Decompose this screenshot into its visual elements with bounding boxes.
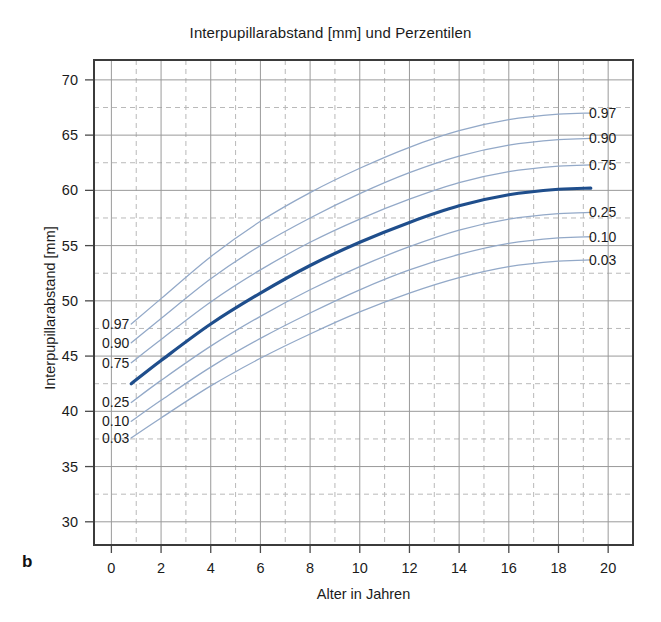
grid-minor-lines — [94, 60, 633, 545]
x-tick-label: 14 — [451, 560, 467, 576]
percentile-label-right-0_03: 0.03 — [589, 252, 616, 268]
x-tick-label: 16 — [501, 560, 517, 576]
y-tick-label: 70 — [62, 72, 78, 88]
x-tick-label: 10 — [352, 560, 368, 576]
y-tick-label: 60 — [62, 182, 78, 198]
x-tick-label: 18 — [550, 560, 566, 576]
percentile-curves — [131, 113, 591, 438]
y-tick-labels: 706560555045403530 — [62, 72, 78, 530]
y-tick-label: 45 — [62, 348, 78, 364]
y-tick-label: 30 — [62, 514, 78, 530]
percentile-label-left-0_97: 0.97 — [102, 316, 129, 332]
percentile-label-left-0_90: 0.90 — [102, 335, 129, 351]
x-tick-label: 0 — [107, 560, 115, 576]
y-tick-label: 65 — [62, 127, 78, 143]
y-axis-title: Interpupillarabstand [mm] — [42, 178, 58, 438]
x-tick-label: 4 — [207, 560, 215, 576]
x-tick-label: 20 — [600, 560, 616, 576]
page-title: Interpupillarabstand [mm] und Perzentile… — [0, 24, 661, 41]
percentile-label-left-0_03: 0.03 — [102, 430, 129, 446]
y-tick-label: 55 — [62, 238, 78, 254]
plot-frame — [94, 60, 633, 545]
y-tick-label: 35 — [62, 459, 78, 475]
percentile-label-right-0_75: 0.75 — [589, 157, 616, 173]
x-axis-title: Alter in Jahren — [94, 586, 633, 602]
grid-major-lines — [94, 60, 633, 545]
y-tick-label: 50 — [62, 293, 78, 309]
percentile-label-right-0_97: 0.97 — [589, 105, 616, 121]
percentile-label-left-0_75: 0.75 — [102, 355, 129, 371]
percentile-label-right-0_25: 0.25 — [589, 204, 616, 220]
percentile-end-labels: 0.970.970.900.900.750.750.250.250.100.10… — [102, 105, 616, 446]
x-tick-labels: 02468101214161820 — [107, 560, 616, 576]
x-tick-label: 8 — [306, 560, 314, 576]
y-tick-label: 40 — [62, 403, 78, 419]
percentile-chart-plot: 706560555045403530 02468101214161820 0.9… — [0, 0, 661, 622]
x-tick-label: 2 — [157, 560, 165, 576]
percentile-label-left-0_10: 0.10 — [102, 413, 129, 429]
x-tick-label: 6 — [256, 560, 264, 576]
percentile-label-right-0_90: 0.90 — [589, 130, 616, 146]
percentile-label-left-0_25: 0.25 — [102, 394, 129, 410]
x-tick-label: 12 — [401, 560, 417, 576]
chart-figure: Interpupillarabstand [mm] und Perzentile… — [0, 0, 661, 622]
percentile-label-right-0_10: 0.10 — [589, 229, 616, 245]
panel-letter: b — [22, 552, 32, 572]
